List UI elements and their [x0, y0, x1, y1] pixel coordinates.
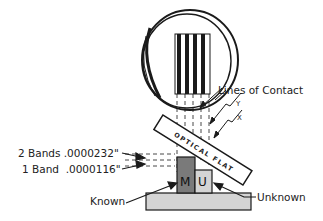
optical-flat-diagram: OPTICAL FLAT M U Lines of Contact Y X 2 … [0, 0, 323, 221]
unknown-block-label: U [198, 175, 207, 189]
y-label: Y [236, 98, 240, 110]
known-label: Known [90, 195, 125, 207]
base-plate [146, 193, 251, 210]
lines-of-contact-label: Lines of Contact [218, 84, 303, 96]
unknown-label: Unknown [257, 191, 306, 203]
two-bands-label: 2 Bands .0000232" [18, 147, 119, 159]
x-label: X [237, 112, 242, 124]
master-block-label: M [180, 175, 190, 189]
fringe-pattern [175, 34, 210, 94]
diagram-graphic: OPTICAL FLAT M U [0, 0, 323, 221]
one-band-label: 1 Band .0000116" [22, 163, 121, 175]
